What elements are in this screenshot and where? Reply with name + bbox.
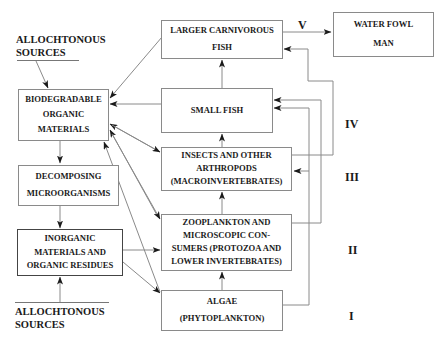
allochtonous-sources-bottom: ALLOCHTONOUS SOURCES <box>15 305 105 331</box>
box-line: ALGAE <box>207 297 238 307</box>
box-decomposing-microorganisms: DECOMPOSING MICROORGANISMS <box>18 165 119 206</box>
trophic-level-5: V <box>298 18 307 33</box>
box-biodegradable-organic-materials: BIODEGRADABLE ORGANIC MATERIALS <box>18 89 109 141</box>
box-line: ORGANIC <box>43 110 85 120</box>
box-line: ORGANIC RESIDUES <box>27 261 114 271</box>
box-line: (MACROINVERTEBRATES) <box>171 177 283 187</box>
box-line: SMALL FISH <box>191 106 243 116</box>
box-line: INORGANIC <box>44 234 95 244</box>
trophic-level-3: III <box>345 170 359 185</box>
box-line: MICROORGANISMS <box>27 189 111 199</box>
box-line: (PHYTOPLANKTON) <box>180 314 265 324</box>
source-line-1: ALLOCHTONOUS <box>16 33 106 46</box>
allochtonous-sources-top: ALLOCHTONOUS SOURCES <box>16 33 106 59</box>
box-line: FISH <box>212 43 232 53</box>
source-line-1: ALLOCHTONOUS <box>15 305 105 318</box>
box-inorganic-materials: INORGANIC MATERIALS AND ORGANIC RESIDUES <box>17 229 123 276</box>
source-line-2: SOURCES <box>15 318 105 331</box>
source-line-2: SOURCES <box>16 46 106 59</box>
box-line: MATERIALS AND <box>34 248 106 258</box>
box-line: LOWER INVERTEBRATES) <box>171 257 282 267</box>
trophic-level-1: I <box>349 309 354 324</box>
box-water-fowl-man: WATER FOWL MAN <box>333 12 434 57</box>
box-line: INSECTS AND OTHER <box>181 151 271 161</box>
box-line: MAN <box>373 39 394 49</box>
source-underline <box>17 60 79 61</box>
box-insects-arthropods: INSECTS AND OTHER ARTHROPODS (MACROINVER… <box>161 147 292 191</box>
box-line: DECOMPOSING <box>36 172 102 182</box>
trophic-level-2: II <box>348 243 357 258</box>
box-line: WATER FOWL <box>354 20 413 30</box>
box-zooplankton: ZOOPLANKTON AND MICROSCOPIC CON- SUMERS … <box>161 214 292 271</box>
box-algae-phytoplankton: ALGAE (PHYTOPLANKTON) <box>161 290 283 331</box>
box-larger-carnivorous-fish: LARGER CARNIVOROUS FISH <box>161 20 283 59</box>
box-line: ARTHROPODS <box>196 164 256 174</box>
box-line: MICROSCOPIC CON- <box>183 231 270 241</box>
box-line: LARGER CARNIVOROUS <box>170 26 274 36</box>
box-line: ZOOPLANKTON AND <box>183 218 271 228</box>
source-underline-bottom <box>15 302 109 303</box>
box-line: MATERIALS <box>38 125 89 135</box>
trophic-level-4: IV <box>345 117 358 132</box>
box-line: SUMERS (PROTOZOA AND <box>172 244 282 254</box>
box-line: BIODEGRADABLE <box>25 95 101 105</box>
box-small-fish: SMALL FISH <box>161 88 273 133</box>
